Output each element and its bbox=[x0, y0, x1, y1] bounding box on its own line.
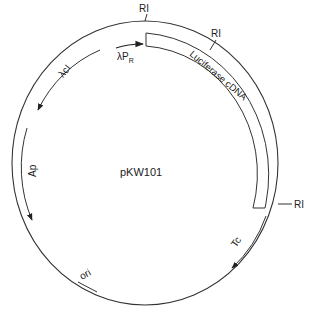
plasmid-name-label: pKW101 bbox=[120, 166, 162, 178]
ri-site-label-top: RI bbox=[139, 3, 149, 14]
lambda-ci-arrow bbox=[38, 50, 100, 110]
lambda-ci-label: λcI bbox=[56, 62, 73, 79]
luciferase-label: Luciferase cDNA bbox=[188, 48, 250, 103]
ri-site-label-upper-right: RI bbox=[211, 28, 221, 39]
ri-site-tick-top bbox=[145, 14, 147, 21]
tc-label: Tc bbox=[229, 235, 244, 250]
ri-site-label-right: RI bbox=[294, 199, 304, 210]
promoter-arrow bbox=[116, 44, 143, 48]
ap-label: Ap bbox=[27, 164, 38, 177]
ori-label: ori bbox=[78, 267, 93, 282]
plasmid-map-svg: RI RI RI λPR Luciferase cDNA λcI Ap Tc o… bbox=[0, 0, 311, 313]
plasmid-map: RI RI RI λPR Luciferase cDNA λcI Ap Tc o… bbox=[0, 0, 311, 313]
promoter-label: λPR bbox=[117, 51, 134, 64]
